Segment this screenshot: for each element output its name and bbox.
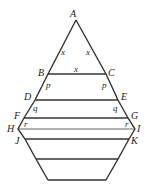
label-AC-x: x [85,47,90,57]
label-BC-x: x [73,64,78,74]
label-A: A [69,8,77,19]
label-BD-p: p [45,80,51,90]
label-I: I [136,123,141,134]
label-AB-x: x [60,47,65,57]
label-F: F [13,110,21,121]
label-H: H [6,123,15,134]
label-K: K [130,135,139,146]
label-G: G [131,110,138,121]
label-EG-q: q [113,103,118,113]
label-J: J [15,135,20,146]
label-GI-r: r [125,119,129,129]
label-DF-q: q [33,103,38,113]
label-E: E [120,91,127,102]
label-D: D [23,91,32,102]
label-C: C [108,67,115,78]
label-CE-p: p [101,80,107,90]
geometry-diagram: A B C D E F G H I J K x x x p p q q r r [0,0,149,192]
label-B: B [38,67,44,78]
label-FH-r: r [24,119,28,129]
